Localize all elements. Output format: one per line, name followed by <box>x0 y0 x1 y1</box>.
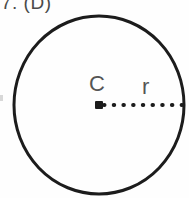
scan-artifact-speck <box>0 95 3 101</box>
radius-label: r <box>142 76 149 98</box>
circle-diagram-svg <box>0 0 189 198</box>
center-point-label: C <box>89 73 105 95</box>
figure-canvas: 7. (D) C r <box>0 0 189 198</box>
center-point-dot <box>95 101 103 109</box>
